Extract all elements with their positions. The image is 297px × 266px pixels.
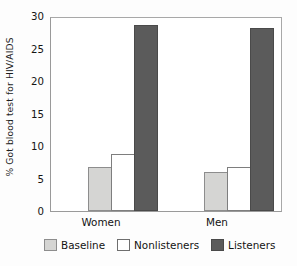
- bar-baseline-women: [88, 167, 112, 211]
- y-axis-title: % Got blood test for HIV/AIDS: [2, 1, 18, 213]
- legend-swatch-listeners-icon: [211, 239, 224, 251]
- bar-baseline-men: [204, 172, 228, 211]
- y-axis-tick-label: 0: [20, 207, 44, 217]
- chart-legend: BaselineNonlistenersListeners: [44, 236, 284, 254]
- y-axis-tick-label: 10: [20, 142, 44, 152]
- bar-listeners-men: [250, 28, 274, 211]
- legend-item-nonlisteners[interactable]: Nonlisteners: [117, 239, 199, 251]
- legend-label: Baseline: [61, 239, 105, 251]
- legend-swatch-nonlisteners-icon: [117, 239, 130, 251]
- bar-chart: % Got blood test for HIV/AIDS 0510152025…: [0, 0, 297, 266]
- plot-area: [51, 18, 281, 211]
- bar-nonlisteners-women: [111, 154, 135, 211]
- y-axis-tick-label: 5: [20, 175, 44, 185]
- y-axis-tick-label: 30: [20, 12, 44, 22]
- y-axis-tick-label: 25: [20, 45, 44, 55]
- plot-frame: [50, 17, 282, 212]
- x-axis-category-label-women: Women: [56, 215, 146, 229]
- y-axis-tick-label: 20: [20, 77, 44, 87]
- legend-label: Listeners: [228, 239, 275, 251]
- bar-nonlisteners-men: [227, 167, 251, 211]
- legend-item-baseline[interactable]: Baseline: [44, 239, 105, 251]
- legend-item-listeners[interactable]: Listeners: [211, 239, 275, 251]
- y-axis-tick-label: 15: [20, 110, 44, 120]
- legend-swatch-baseline-icon: [44, 239, 57, 251]
- bar-listeners-women: [134, 25, 158, 211]
- legend-label: Nonlisteners: [134, 239, 199, 251]
- x-axis-category-label-men: Men: [172, 215, 262, 229]
